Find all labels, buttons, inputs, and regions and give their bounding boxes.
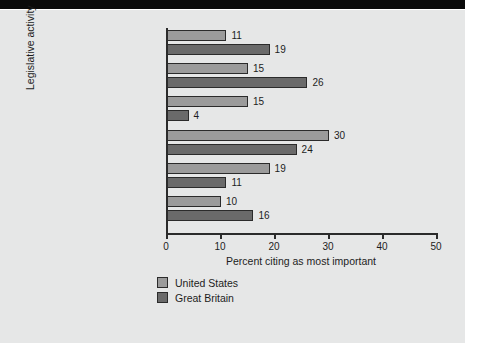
legend-label-united-states: United States <box>175 277 238 289</box>
scan-edge-band <box>0 0 465 9</box>
x-tick-0 <box>166 233 168 239</box>
bar-value-label-gb-5: 16 <box>258 210 269 221</box>
bar-value-label-gb-1: 26 <box>312 77 323 88</box>
x-tick-40 <box>382 233 384 239</box>
plot-area: 01020304050 11191526154302419111016 <box>166 28 436 233</box>
bar-value-label-gb-3: 24 <box>302 144 313 155</box>
x-tick-30 <box>328 233 330 239</box>
bar-us-3 <box>167 130 329 141</box>
bar-value-label-gb-4: 11 <box>231 177 241 188</box>
figure: Legislative activity Percent citing as m… <box>0 0 479 343</box>
y-axis-title: Legislative activity <box>24 5 36 90</box>
x-tick-label-50: 50 <box>430 241 441 252</box>
x-tick-20 <box>274 233 276 239</box>
bar-gb-3 <box>167 144 297 155</box>
x-tick-50 <box>436 233 438 239</box>
bar-gb-5 <box>167 210 253 221</box>
bar-gb-4 <box>167 177 226 188</box>
x-axis-line <box>166 233 436 235</box>
bar-us-5 <box>167 196 221 207</box>
bar-value-label-us-0: 11 <box>231 30 241 41</box>
legend-item-great-britain: Great Britain <box>157 291 238 304</box>
x-axis-title: Percent citing as most important <box>166 255 436 267</box>
x-tick-label-30: 30 <box>322 241 333 252</box>
legend-swatch-great-britain <box>157 292 168 303</box>
bar-value-label-us-2: 15 <box>253 96 264 107</box>
legend-label-great-britain: Great Britain <box>175 292 234 304</box>
bar-value-label-us-1: 15 <box>253 63 264 74</box>
bar-us-1 <box>167 63 248 74</box>
bar-us-0 <box>167 30 226 41</box>
x-tick-label-20: 20 <box>268 241 279 252</box>
bar-us-2 <box>167 96 248 107</box>
bar-us-4 <box>167 163 270 174</box>
bar-gb-0 <box>167 44 270 55</box>
x-tick-label-0: 0 <box>163 241 169 252</box>
x-tick-10 <box>220 233 222 239</box>
bar-value-label-us-4: 19 <box>275 163 286 174</box>
bar-gb-1 <box>167 77 307 88</box>
x-tick-label-40: 40 <box>376 241 387 252</box>
bar-value-label-us-5: 10 <box>226 196 237 207</box>
bar-value-label-gb-0: 19 <box>275 44 286 55</box>
bar-value-label-gb-2: 4 <box>194 110 200 121</box>
x-tick-label-10: 10 <box>214 241 225 252</box>
legend-item-united-states: United States <box>157 276 238 289</box>
bar-gb-2 <box>167 110 189 121</box>
legend-swatch-united-states <box>157 277 168 288</box>
bar-value-label-us-3: 30 <box>334 130 345 141</box>
legend: United States Great Britain <box>157 276 238 306</box>
